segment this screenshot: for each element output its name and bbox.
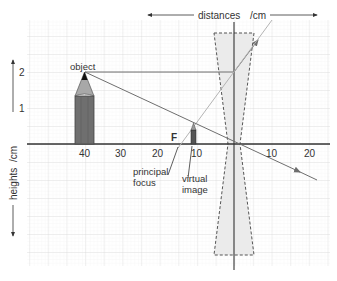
heights-axis-label: heights /cm bbox=[8, 60, 19, 236]
virtual-image-label-line2: image bbox=[182, 184, 208, 195]
x-tick-left-40: 40 bbox=[79, 148, 91, 159]
ray-diagram: F object principal focus virtual image 4… bbox=[0, 0, 337, 281]
x-tick-left-30: 30 bbox=[115, 148, 127, 159]
x-tick-left-10: 10 bbox=[191, 148, 203, 159]
x-tick-right-10: 10 bbox=[266, 148, 278, 159]
virtual-image-label-line1: virtual bbox=[182, 173, 207, 184]
distances-label-text: distances bbox=[198, 10, 240, 21]
principal-focus-label-line2: focus bbox=[133, 177, 156, 188]
x-tick-left-20: 20 bbox=[152, 148, 164, 159]
y-tick-1: 1 bbox=[19, 103, 25, 114]
object-label: object bbox=[70, 61, 96, 72]
distances-axis-label: distances /cm bbox=[148, 10, 317, 21]
heights-unit-text: /cm bbox=[8, 146, 19, 162]
focus-marker-label: F bbox=[171, 132, 177, 143]
heights-label-text: heights bbox=[8, 168, 19, 200]
x-tick-right-20: 20 bbox=[304, 148, 316, 159]
principal-focus-label-line1: principal bbox=[133, 166, 168, 177]
distances-unit-text: /cm bbox=[250, 10, 266, 21]
graph-paper-grid bbox=[27, 20, 330, 266]
y-tick-2: 2 bbox=[19, 67, 25, 78]
